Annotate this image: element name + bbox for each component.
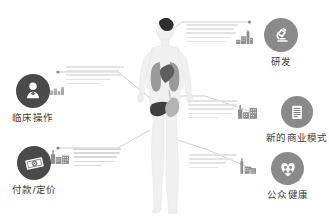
node-payment-pricing[interactable]: 付款/定价 xyxy=(12,146,57,195)
heart-people-icon xyxy=(271,152,304,185)
infographic-canvas: 医疗健康行业价值链信息图 xyxy=(0,0,329,224)
node-research-development[interactable]: 研发 xyxy=(264,18,298,67)
node-label-clinical-operations: 临床操作 xyxy=(12,113,53,123)
node-label-payment-pricing: 付款/定价 xyxy=(12,185,57,195)
text-block-research-development xyxy=(186,24,238,45)
building-icon xyxy=(281,96,313,128)
chart-bars-icon xyxy=(236,30,253,44)
factory-wide-icon xyxy=(51,150,69,164)
node-public-health[interactable]: 公众健康 xyxy=(267,152,308,200)
money-icon xyxy=(17,146,51,180)
text-block-public-health xyxy=(189,154,237,171)
node-label-public-health: 公众健康 xyxy=(267,190,308,200)
text-block-clinical-operations xyxy=(66,66,124,87)
node-label-new-business-model: 新的商业模式 xyxy=(266,133,328,143)
node-new-business-model[interactable]: 新的商业模式 xyxy=(266,96,328,143)
factory-wide-icon-2 xyxy=(238,104,257,119)
node-clinical-operations[interactable]: 临床操作 xyxy=(12,74,53,123)
node-label-research-development: 研发 xyxy=(271,57,292,67)
text-block-new-business-model xyxy=(188,100,238,121)
text-block-payment-pricing xyxy=(73,148,121,169)
page-title: 医疗健康行业价值链信息图 xyxy=(0,21,1,22)
factory-small-icon xyxy=(50,86,64,95)
doctor-icon xyxy=(16,74,50,108)
factory-tall-icon xyxy=(239,158,256,174)
microscope-icon xyxy=(264,18,298,52)
